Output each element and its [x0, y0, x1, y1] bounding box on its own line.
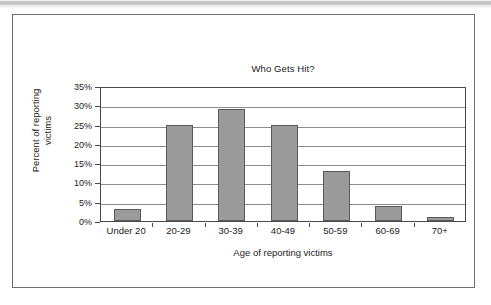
y-tick-label: 0% [79, 217, 92, 227]
x-axis-ticks: Under 2020-2930-3940-4950-5960-6970+ [100, 223, 466, 241]
x-tick-mark [152, 223, 153, 227]
bar-70 [427, 217, 454, 221]
plot-area [100, 87, 466, 222]
chart-title: Who Gets Hit? [100, 63, 466, 74]
bar-20-29 [166, 125, 193, 221]
x-tick-label: Under 20 [107, 225, 146, 236]
bar-30-39 [218, 109, 245, 221]
bar-50-59 [323, 171, 350, 221]
scan-artifact-edge [0, 6, 491, 8]
y-axis-ticks: 0%5%10%15%20%25%30%35% [13, 87, 100, 222]
y-tick-label: 15% [74, 159, 92, 169]
figure-frame: Who Gets Hit? Percent of reporting victi… [12, 14, 475, 288]
x-tick-mark [205, 223, 206, 227]
x-tick-label: 50-59 [323, 225, 347, 236]
bar-60-69 [375, 206, 402, 221]
x-tick-mark [257, 223, 258, 227]
y-tick-label: 10% [74, 178, 92, 188]
x-tick-label: 70+ [432, 225, 448, 236]
y-tick-label: 30% [74, 101, 92, 111]
x-tick-mark [309, 223, 310, 227]
bar-40-49 [271, 125, 298, 221]
y-tick-label: 35% [74, 82, 92, 92]
bar-under-20 [114, 209, 141, 221]
x-tick-label: 40-49 [271, 225, 295, 236]
x-tick-label: 60-69 [375, 225, 399, 236]
bar-series [101, 88, 465, 221]
x-tick-label: 20-29 [166, 225, 190, 236]
x-tick-mark [414, 223, 415, 227]
y-tick-label: 20% [74, 140, 92, 150]
x-tick-mark [361, 223, 362, 227]
y-tick-label: 5% [79, 198, 92, 208]
x-axis-title: Age of reporting victims [100, 247, 466, 258]
y-tick-label: 25% [74, 121, 92, 131]
x-tick-label: 30-39 [219, 225, 243, 236]
